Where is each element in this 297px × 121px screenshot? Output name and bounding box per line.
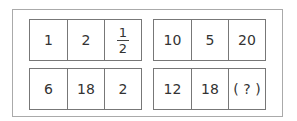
numerator: 1: [119, 26, 127, 39]
cell: 18: [191, 69, 228, 109]
cell: 2: [104, 69, 141, 109]
cell: 2: [67, 20, 104, 60]
unknown-cell: ( ? ): [228, 69, 265, 109]
right-group-top-row: 10 5 20: [153, 19, 266, 61]
cell: 1: [30, 20, 67, 60]
cell: 18: [67, 69, 104, 109]
denominator: 2: [119, 42, 127, 55]
cell: 10: [154, 20, 191, 60]
left-group-top-row: 1 2 1 2: [29, 19, 142, 61]
cell: 12: [154, 69, 191, 109]
cell: 6: [30, 69, 67, 109]
cell: 5: [191, 20, 228, 60]
fraction-cell: 1 2: [104, 20, 141, 60]
cell: 20: [228, 20, 265, 60]
right-group-bottom-row: 12 18 ( ? ): [153, 68, 266, 110]
fraction: 1 2: [117, 26, 129, 55]
left-group-bottom-row: 6 18 2: [29, 68, 142, 110]
